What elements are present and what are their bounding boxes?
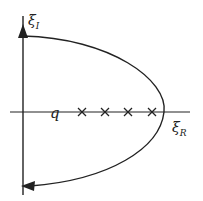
point-label-q: q (50, 104, 60, 122)
arrow-up-icon (18, 24, 28, 38)
imaginary-axis-label: ξI (28, 12, 40, 31)
real-axis-label: ξR (172, 119, 187, 138)
contour-diagram: q ξI ξR (0, 0, 203, 201)
contour-path (23, 36, 164, 186)
